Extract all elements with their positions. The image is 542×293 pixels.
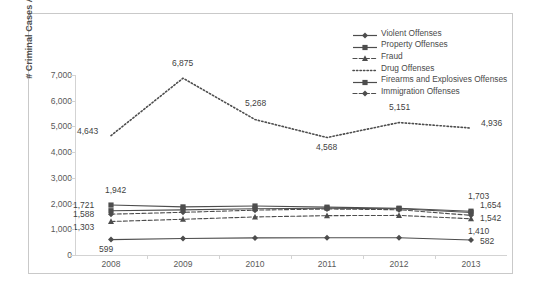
x-tick-mark: [363, 255, 364, 259]
legend-label: Immigration Offenses: [378, 86, 460, 96]
data-point-label: 1,303: [73, 222, 94, 232]
data-point-label: 6,875: [172, 58, 193, 68]
legend-item[interactable]: Violent Offenses: [352, 27, 512, 39]
data-point-label: 1,942: [105, 185, 126, 195]
legend-marker-icon: [352, 74, 378, 85]
data-point-label: 5,151: [389, 102, 410, 112]
legend-label: Property Offenses: [378, 39, 448, 49]
chart-legend: Violent OffensesProperty OffensesFraudDr…: [352, 27, 512, 97]
legend-label: Firearms and Explosives Offenses: [378, 74, 507, 84]
legend-label: Drug Offenses: [378, 63, 434, 73]
x-tick-mark: [435, 255, 436, 259]
legend-item[interactable]: Drug Offenses: [352, 62, 512, 74]
y-tick-mark: [71, 152, 75, 153]
legend-marker-icon: [352, 85, 378, 96]
legend-label: Violent Offenses: [378, 28, 442, 38]
x-tick-mark: [219, 255, 220, 259]
legend-item[interactable]: Immigration Offenses: [352, 85, 512, 97]
legend-item[interactable]: Fraud: [352, 50, 512, 62]
y-tick-mark: [71, 75, 75, 76]
data-point-label: 1,703: [468, 191, 489, 201]
data-point-label: 1,654: [480, 200, 501, 210]
x-tick-mark: [291, 255, 292, 259]
y-tick-mark: [71, 126, 75, 127]
x-tick-mark: [147, 255, 148, 259]
data-point-label: 599: [99, 244, 113, 254]
y-tick-mark: [71, 101, 75, 102]
legend-marker-icon: [352, 62, 378, 73]
chart-screenshot: # Criminal Cases Appealed 01,0002,0003,0…: [0, 0, 542, 293]
legend-marker-icon: [352, 39, 378, 50]
data-point-label: 4,936: [481, 118, 502, 128]
data-point-label: 1,410: [468, 226, 489, 236]
y-tick-mark: [71, 229, 75, 230]
y-tick-mark: [71, 178, 75, 179]
y-tick-mark: [71, 204, 75, 205]
data-point-label: 4,643: [77, 126, 98, 136]
data-point-label: 1,588: [73, 209, 94, 219]
data-point-label: 582: [480, 236, 494, 246]
legend-label: Fraud: [378, 51, 403, 61]
legend-item[interactable]: Firearms and Explosives Offenses: [352, 73, 512, 85]
data-point-label: 5,268: [245, 98, 266, 108]
data-point-label: 4,568: [316, 142, 337, 152]
legend-marker-icon: [352, 50, 378, 61]
y-tick-mark: [71, 255, 75, 256]
legend-item[interactable]: Property Offenses: [352, 39, 512, 51]
data-point-label: 1,542: [480, 213, 501, 223]
legend-marker-icon: [352, 27, 378, 38]
